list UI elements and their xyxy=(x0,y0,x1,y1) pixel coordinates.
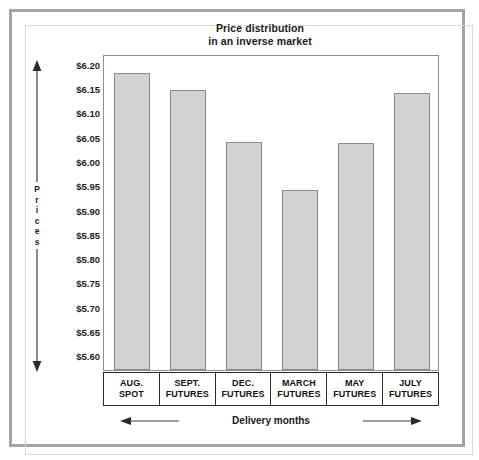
y-axis-tick-label: $6.20 xyxy=(56,59,100,70)
y-axis-tick-label: $5.80 xyxy=(56,254,100,265)
bar xyxy=(226,142,262,370)
bars-layer xyxy=(104,56,438,370)
y-axis-tick-label: $6.10 xyxy=(56,108,100,119)
chart-figure: Price distribution in an inverse market … xyxy=(0,0,479,460)
bar xyxy=(170,90,206,370)
category-label-cell: JULYFUTURES xyxy=(383,373,438,405)
category-label-line: FUTURES xyxy=(389,389,432,401)
category-label-line: MARCH xyxy=(282,378,316,390)
category-label-cell: DEC.FUTURES xyxy=(216,373,272,405)
category-label-line: FUTURES xyxy=(221,389,264,401)
category-label-line: AUG. xyxy=(120,378,143,390)
y-axis-title-letter: r xyxy=(30,195,44,206)
chart-title-line-1: Price distribution xyxy=(100,22,420,35)
bar xyxy=(282,190,318,370)
y-axis-tick-label: $5.85 xyxy=(56,229,100,240)
y-axis-tick-label: $5.90 xyxy=(56,205,100,216)
y-axis-tick-label: $5.95 xyxy=(56,181,100,192)
category-label-line: DEC. xyxy=(232,378,254,390)
chart-title-line-2: in an inverse market xyxy=(100,35,420,48)
bar xyxy=(338,143,374,370)
y-axis-tick-label: $6.00 xyxy=(56,156,100,167)
category-label-cell: SEPT.FUTURES xyxy=(160,373,216,405)
category-label-cell: AUG.SPOT xyxy=(104,373,160,405)
category-label-line: SPOT xyxy=(119,389,144,401)
y-axis-title-letter: c xyxy=(30,216,44,227)
x-axis-title: Delivery months xyxy=(179,414,363,428)
plot-area xyxy=(103,55,439,371)
y-axis-tick-label: $5.60 xyxy=(56,351,100,362)
bar xyxy=(114,73,150,370)
y-axis-tick-label: $6.05 xyxy=(56,132,100,143)
y-axis-title: P r i c e s xyxy=(30,182,44,249)
y-axis-title-letter: s xyxy=(30,237,44,248)
chart-title: Price distribution in an inverse market xyxy=(100,22,420,48)
y-axis-tick-label: $6.15 xyxy=(56,84,100,95)
category-label-line: JULY xyxy=(399,378,422,390)
y-axis-title-letter: P xyxy=(30,184,44,195)
category-label-line: MAY xyxy=(345,378,364,390)
y-axis-title-letter: e xyxy=(30,226,44,237)
y-axis-tick-label: $5.75 xyxy=(56,278,100,289)
y-axis-tick-label: $5.65 xyxy=(56,327,100,338)
y-axis-tick-label: $5.70 xyxy=(56,302,100,313)
bar xyxy=(394,93,430,370)
category-label-line: FUTURES xyxy=(277,389,320,401)
category-label-cell: MARCHFUTURES xyxy=(271,373,327,405)
category-label-cell: MAYFUTURES xyxy=(327,373,383,405)
y-axis-tick-labels: $6.20$6.15$6.10$6.05$6.00$5.95$5.90$5.85… xyxy=(56,55,100,371)
category-label-line: FUTURES xyxy=(333,389,376,401)
category-label-line: FUTURES xyxy=(166,389,209,401)
category-label-table: AUG.SPOTSEPT.FUTURESDEC.FUTURESMARCHFUTU… xyxy=(103,372,439,406)
category-label-line: SEPT. xyxy=(174,378,200,390)
y-axis-title-letter: i xyxy=(30,205,44,216)
